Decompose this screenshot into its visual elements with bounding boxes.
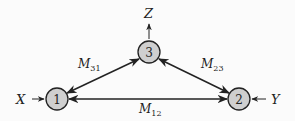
node-3-label: 3 <box>145 46 153 60</box>
edge-label-m31: M31 <box>77 57 100 73</box>
node-1-label: 1 <box>53 93 61 107</box>
node-3: 3 <box>138 41 160 63</box>
io-label-x: X <box>15 92 26 107</box>
network-diagram: 1 2 3 M31 M23 M12 X Y Z <box>0 0 295 121</box>
io-label-y: Y <box>271 92 281 107</box>
node-2: 2 <box>228 88 250 110</box>
edge-label-m23: M23 <box>200 57 223 73</box>
node-1: 1 <box>46 88 68 110</box>
diagram-canvas: 1 2 3 M31 M23 M12 X Y Z <box>0 0 295 121</box>
io-label-z: Z <box>143 6 154 21</box>
edge-label-m12: M12 <box>138 102 161 118</box>
node-2-label: 2 <box>235 93 243 107</box>
